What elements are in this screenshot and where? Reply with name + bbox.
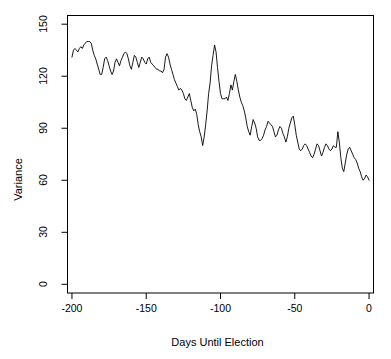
x-axis-tick-marks bbox=[72, 293, 369, 299]
plot-box bbox=[68, 16, 374, 294]
variance-series-line bbox=[72, 42, 369, 181]
plot-border bbox=[68, 16, 374, 294]
x-tick-label: -50 bbox=[273, 302, 317, 314]
x-tick-label: -150 bbox=[124, 302, 168, 314]
x-tick-label: 0 bbox=[347, 302, 391, 314]
variance-line-chart-figure: 0306090120150 -200-150-100-500 Days Unti… bbox=[0, 0, 391, 359]
y-axis-title: Variance bbox=[8, 0, 68, 359]
x-tick-label: -100 bbox=[199, 302, 243, 314]
data-series-group bbox=[72, 42, 369, 181]
